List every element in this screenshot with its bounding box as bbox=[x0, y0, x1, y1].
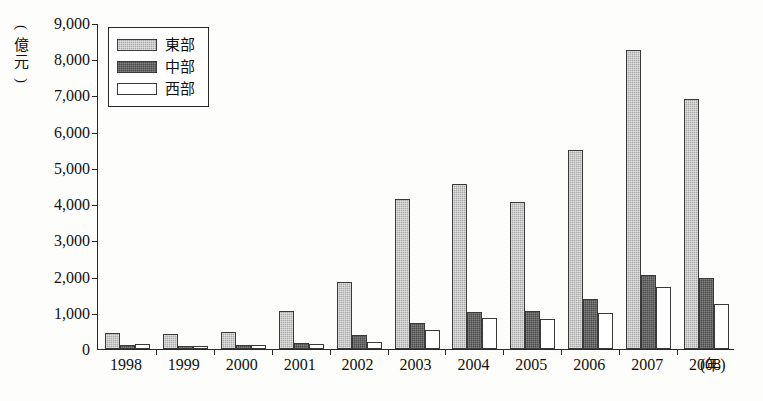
y-axis-tick-label: 8,000 bbox=[32, 52, 90, 68]
y-unit-open-paren: ( bbox=[13, 13, 30, 43]
bar-group bbox=[395, 199, 440, 349]
x-axis-tick-label: 2006 bbox=[560, 356, 618, 374]
bar-west bbox=[714, 304, 729, 349]
chart-legend: 東部中部西部 bbox=[108, 27, 209, 107]
legend-label-west: 西部 bbox=[165, 82, 195, 97]
x-axis-tick-mark bbox=[330, 349, 331, 355]
y-axis-tick-label: 6,000 bbox=[32, 125, 90, 141]
x-axis-tick-mark bbox=[214, 349, 215, 355]
bar-central bbox=[467, 312, 482, 349]
x-axis-tick-label: 2001 bbox=[271, 356, 329, 374]
bar-central bbox=[352, 335, 367, 349]
y-axis-tick-mark bbox=[92, 314, 98, 315]
bar-group bbox=[221, 332, 266, 349]
x-axis-tick-label: 2003 bbox=[387, 356, 445, 374]
x-axis-tick-mark bbox=[272, 349, 273, 355]
y-axis-tick-label: 5,000 bbox=[32, 161, 90, 177]
legend-label-east: 東部 bbox=[165, 38, 195, 53]
x-axis-unit-label: (年) bbox=[700, 356, 726, 374]
bar-east bbox=[684, 99, 699, 349]
bar-central bbox=[699, 278, 714, 349]
bar-east bbox=[568, 150, 583, 349]
y-axis-tick-label: 9,000 bbox=[32, 16, 90, 32]
bar-group bbox=[568, 150, 613, 349]
y-axis-tick-mark bbox=[92, 241, 98, 242]
bar-group bbox=[337, 282, 382, 349]
x-axis-tick-mark bbox=[619, 349, 620, 355]
y-axis-tick-label: 3,000 bbox=[32, 233, 90, 249]
y-axis-tick-mark bbox=[92, 96, 98, 97]
x-axis-tick-mark bbox=[503, 349, 504, 355]
bar-central bbox=[120, 345, 135, 349]
legend-swatch-west bbox=[117, 83, 157, 95]
x-axis-tick-mark bbox=[445, 349, 446, 355]
x-axis-tick-mark bbox=[677, 349, 678, 355]
y-axis-tick-mark bbox=[92, 169, 98, 170]
legend-item-west: 西部 bbox=[117, 78, 199, 100]
x-axis-tick-label: 1998 bbox=[97, 356, 155, 374]
legend-swatch-central bbox=[117, 61, 157, 73]
bar-east bbox=[452, 184, 467, 349]
bar-group bbox=[279, 311, 324, 349]
legend-swatch-east bbox=[117, 39, 157, 51]
y-axis-tick-label: 7,000 bbox=[32, 88, 90, 104]
x-axis-tick-label: 1999 bbox=[155, 356, 213, 374]
bar-central bbox=[410, 323, 425, 349]
y-axis-tick-label: 2,000 bbox=[32, 270, 90, 286]
legend-item-east: 東部 bbox=[117, 34, 199, 56]
bar-east bbox=[395, 199, 410, 349]
y-axis-tick-labels: 9,0008,0007,0006,0005,0004,0003,0002,000… bbox=[32, 0, 90, 401]
x-axis-tick-label: 2007 bbox=[618, 356, 676, 374]
bar-group bbox=[452, 184, 497, 349]
bar-east bbox=[626, 50, 641, 349]
bar-central bbox=[294, 343, 309, 349]
bar-west bbox=[540, 319, 555, 349]
y-axis-tick-mark bbox=[92, 205, 98, 206]
x-axis-tick-mark bbox=[388, 349, 389, 355]
bar-west bbox=[598, 313, 613, 349]
x-axis-tick-label: 2000 bbox=[213, 356, 271, 374]
x-axis-tick-mark bbox=[561, 349, 562, 355]
bar-central bbox=[178, 346, 193, 349]
bar-west bbox=[482, 318, 497, 350]
y-axis-tick-mark bbox=[92, 24, 98, 25]
x-axis-tick-mark bbox=[156, 349, 157, 355]
bar-east bbox=[279, 311, 294, 349]
y-unit-close-paren: ) bbox=[13, 66, 30, 96]
x-axis-tick-label: 2002 bbox=[329, 356, 387, 374]
y-axis-tick-mark bbox=[92, 60, 98, 61]
bar-east bbox=[510, 202, 525, 349]
x-axis-tick-label: 2005 bbox=[502, 356, 560, 374]
bar-group bbox=[510, 202, 555, 349]
bar-central bbox=[525, 311, 540, 349]
y-axis-tick-mark bbox=[92, 278, 98, 279]
bar-group bbox=[105, 333, 150, 349]
bar-west bbox=[309, 344, 324, 349]
chart-figure: ( 億 元 ) 9,0008,0007,0006,0005,0004,0003,… bbox=[0, 0, 763, 401]
bar-west bbox=[135, 344, 150, 349]
y-axis-tick-label: 1,000 bbox=[32, 306, 90, 322]
y-axis-tick-label: 4,000 bbox=[32, 197, 90, 213]
bar-west bbox=[251, 345, 266, 349]
x-axis-tick-label: 2004 bbox=[444, 356, 502, 374]
bar-east bbox=[105, 333, 120, 349]
x-unit-close-paren: ) bbox=[720, 356, 725, 373]
bar-central bbox=[236, 345, 251, 349]
bar-east bbox=[221, 332, 236, 349]
bar-group bbox=[684, 99, 729, 349]
y-axis-tick-label: 0 bbox=[32, 342, 90, 358]
bar-west bbox=[193, 346, 208, 349]
bar-west bbox=[656, 287, 671, 349]
bar-group bbox=[163, 334, 208, 349]
bar-west bbox=[367, 342, 382, 349]
bar-group bbox=[626, 50, 671, 349]
bar-west bbox=[425, 330, 440, 349]
legend-item-central: 中部 bbox=[117, 56, 199, 78]
x-unit-char-nian: 年 bbox=[705, 356, 720, 374]
bar-central bbox=[583, 299, 598, 349]
bar-east bbox=[337, 282, 352, 349]
legend-label-central: 中部 bbox=[165, 60, 195, 75]
y-axis-tick-mark bbox=[92, 133, 98, 134]
bar-east bbox=[163, 334, 178, 349]
bar-central bbox=[641, 275, 656, 349]
